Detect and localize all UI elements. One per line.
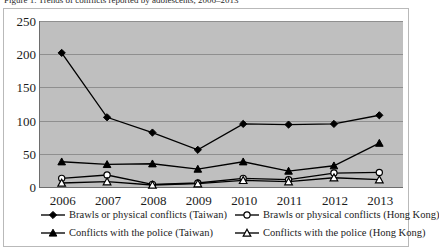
- figure-caption-text: Figure 1. Trends of conflicts reported b…: [0, 0, 238, 5]
- legend-swatch-filled-triangle: [40, 226, 66, 240]
- legend-label: Brawls or physical conflicts (Taiwan): [69, 209, 227, 221]
- hollow-circle-marker: [244, 212, 250, 218]
- y-tick-label: 200: [4, 48, 36, 61]
- legend-label: Conflicts with the police (Hong Kong): [263, 227, 425, 239]
- figure-caption-sliver: Figure 1. Trends of conflicts reported b…: [0, 0, 414, 7]
- legend-swatch-hollow-circle: [234, 208, 260, 222]
- y-tick-label: 50: [4, 147, 36, 160]
- figure-frame: 050100150200250 200620072008200920102011…: [3, 8, 409, 247]
- legend-swatch-filled-diamond: [40, 208, 66, 222]
- legend-item[interactable]: Conflicts with the police (Hong Kong): [234, 225, 425, 241]
- filled-diamond-marker: [49, 211, 56, 218]
- chart-legend: Brawls or physical conflicts (Taiwan)Bra…: [4, 207, 408, 245]
- legend-label: Brawls or physical conflicts (Hong Kong): [263, 209, 439, 221]
- y-tick-label: 0: [4, 181, 36, 194]
- hollow-circle-marker: [376, 169, 382, 175]
- series-layer: [39, 21, 403, 188]
- filled-diamond-marker: [149, 129, 156, 136]
- line-chart: 050100150200250 200620072008200920102011…: [4, 9, 408, 205]
- filled-diamond-marker: [194, 146, 201, 153]
- legend-item[interactable]: Brawls or physical conflicts (Taiwan): [40, 207, 227, 223]
- y-tick-label: 150: [4, 81, 36, 94]
- series-filled-triangle: [58, 139, 383, 174]
- legend-swatch-hollow-triangle: [234, 226, 260, 240]
- y-axis: 050100150200250: [4, 21, 36, 187]
- legend-item[interactable]: Conflicts with the police (Taiwan): [40, 225, 213, 241]
- filled-diamond-marker: [285, 121, 292, 128]
- series-line: [62, 53, 380, 150]
- legend-item[interactable]: Brawls or physical conflicts (Hong Kong): [234, 207, 439, 223]
- y-tick-label: 250: [4, 15, 36, 28]
- filled-diamond-marker: [376, 112, 383, 119]
- filled-triangle-marker: [376, 139, 384, 146]
- y-tick-label: 100: [4, 114, 36, 127]
- filled-diamond-marker: [240, 120, 247, 127]
- filled-triangle-marker: [239, 158, 247, 165]
- series-filled-diamond: [58, 49, 383, 153]
- filled-diamond-marker: [330, 120, 337, 127]
- legend-label: Conflicts with the police (Taiwan): [69, 227, 213, 239]
